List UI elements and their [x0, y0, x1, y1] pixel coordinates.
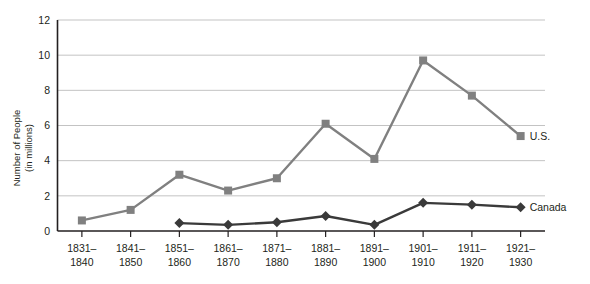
x-axis-tick-label: 1930: [509, 256, 533, 268]
data-point-marker: [127, 206, 135, 214]
x-axis-tick-label: 1850: [119, 256, 143, 268]
data-point-marker: [419, 56, 427, 64]
y-axis-tick-label: 4: [44, 154, 50, 166]
y-axis-tick-label: 10: [38, 49, 50, 61]
x-axis-tick-label: 1911–: [458, 242, 487, 254]
x-axis-tick-label: 1901–: [409, 242, 438, 254]
x-axis-tick-label: 1890: [314, 256, 338, 268]
x-axis-tick-label: 1921–: [506, 242, 535, 254]
data-point-marker: [517, 132, 525, 140]
x-axis-tick-label: 1910: [411, 256, 435, 268]
y-axis-tick-label: 6: [44, 119, 50, 131]
y-axis-tick-label: 0: [44, 225, 50, 237]
x-axis-tick-label: 1920: [460, 256, 484, 268]
x-axis-tick-label: 1881–: [311, 242, 340, 254]
x-axis-tick-label: 1871–: [262, 242, 291, 254]
x-axis-tick-label: 1860: [168, 256, 192, 268]
x-axis-tick-label: 1831–: [67, 242, 96, 254]
series-label-us: U.S.: [530, 130, 550, 142]
y-axis-tick-label: 8: [44, 84, 50, 96]
y-axis-tick-label: 12: [38, 14, 50, 26]
x-axis-tick-label: 1840: [70, 256, 94, 268]
series-label-canada: Canada: [530, 201, 567, 213]
x-axis-tick-label: 1841–: [116, 242, 145, 254]
x-axis-tick-label: 1851–: [165, 242, 194, 254]
x-axis-tick-label: 1880: [265, 256, 289, 268]
data-point-marker: [78, 216, 86, 224]
x-axis-tick-label: 1870: [216, 256, 240, 268]
data-point-marker: [322, 120, 330, 128]
chart-container: 024681012 1831–18401841–18501851–1860186…: [0, 0, 590, 284]
x-axis-tick-label: 1861–: [214, 242, 243, 254]
data-point-marker: [273, 174, 281, 182]
y-axis-title-line1: Number of People: [11, 110, 22, 187]
data-point-marker: [224, 187, 232, 195]
data-point-marker: [468, 92, 476, 100]
y-axis-tick-label: 2: [44, 190, 50, 202]
y-axis-title-line2: (in millions): [23, 124, 34, 172]
x-axis-tick-label: 1891–: [360, 242, 389, 254]
population-line-chart: 024681012 1831–18401841–18501851–1860186…: [0, 0, 590, 284]
x-axis-tick-label: 1900: [363, 256, 387, 268]
data-point-marker: [370, 155, 378, 163]
data-point-marker: [175, 171, 183, 179]
